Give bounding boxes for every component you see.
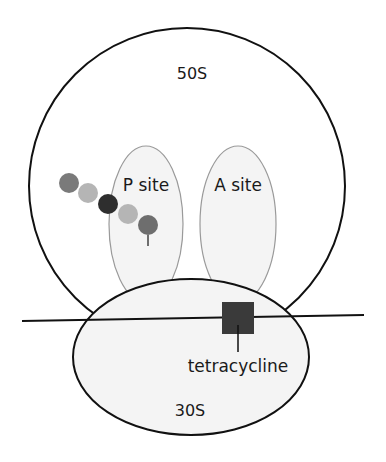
peptide-bead bbox=[118, 204, 138, 224]
ribosome-diagram: 50S P site A site tetracycline 30S bbox=[0, 0, 386, 462]
a-site bbox=[200, 146, 276, 302]
peptide-bead bbox=[59, 173, 79, 193]
label-p-site: P site bbox=[123, 175, 169, 195]
peptide-bead bbox=[138, 215, 158, 235]
label-30s: 30S bbox=[175, 401, 206, 420]
peptide-bead bbox=[98, 194, 118, 214]
label-tetracycline: tetracycline bbox=[188, 356, 289, 376]
peptide-bead bbox=[78, 183, 98, 203]
label-a-site: A site bbox=[214, 175, 262, 195]
label-50s: 50S bbox=[177, 64, 208, 83]
